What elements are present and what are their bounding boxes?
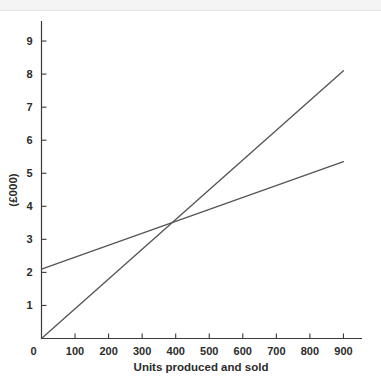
x-tick-label: 300	[133, 345, 151, 357]
x-tick-label: 800	[301, 345, 319, 357]
axes-group	[42, 21, 363, 339]
y-tick-label: 3	[26, 233, 32, 245]
x-tick-label: 400	[167, 345, 185, 357]
x-tick-label: 600	[234, 345, 252, 357]
x-tick-label: 700	[267, 345, 285, 357]
y-tick-label: 4	[26, 200, 33, 212]
chart-page: 123456789 0100200300400500600700800900 U…	[0, 0, 381, 388]
y-tick-label: 8	[26, 68, 32, 80]
y-axis-title: (£000)	[7, 173, 19, 206]
series-group	[42, 71, 344, 339]
x-tick-label: 500	[200, 345, 218, 357]
x-axis-title: Units produced and sold	[134, 361, 269, 373]
y-tick-label: 1	[26, 299, 32, 311]
x-tick-label: 0	[30, 345, 36, 357]
y-tick-label: 2	[26, 266, 32, 278]
x-tick-label: 100	[66, 345, 84, 357]
sales-revenue-line	[42, 71, 344, 339]
break-even-chart: 123456789 0100200300400500600700800900 U…	[0, 0, 381, 388]
y-tick-label: 7	[26, 101, 32, 113]
x-tick-label: 900	[334, 345, 352, 357]
x-tick-label: 200	[99, 345, 117, 357]
y-tick-label: 6	[26, 134, 32, 146]
y-tick-label: 5	[26, 167, 32, 179]
total-cost-line	[42, 162, 344, 269]
y-tick-label: 9	[26, 35, 32, 47]
y-axis-ticks: 123456789	[26, 35, 46, 311]
x-axis-ticks: 0100200300400500600700800900	[30, 334, 352, 357]
